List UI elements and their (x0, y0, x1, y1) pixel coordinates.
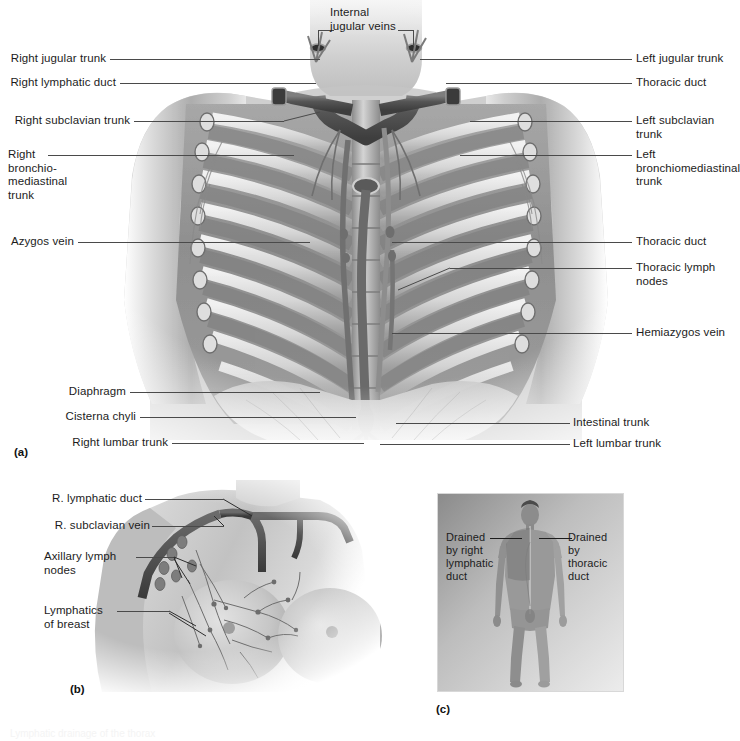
label-left-lumbar-trunk: Left lumbar trunk (573, 437, 693, 451)
label-azygos-vein: Azygos vein (0, 235, 74, 249)
label-hemiazygos-vein: Hemiazygos vein (636, 326, 736, 340)
panel-b-breast-lymphatics: R. lymphatic duct R. subclavian vein Axi… (0, 480, 380, 695)
label-thoracic-duct-lower: Thoracic duct (636, 235, 732, 249)
label-axillary-lymph-nodes: Axillary lymph nodes (44, 550, 142, 577)
label-r-lymphatic-duct: R. lymphatic duct (0, 492, 142, 506)
label-drained-by-right-lymphatic-duct: Drained by right lymphatic duct (446, 531, 496, 583)
panel-letter-a: (a) (14, 446, 28, 458)
label-lymphatics-of-breast: Lymphatics of breast (44, 604, 122, 631)
whole-body-illustration (438, 494, 623, 691)
label-right-subclavian-trunk: Right subclavian trunk (0, 114, 130, 128)
label-thoracic-lymph-nodes: Thoracic lymph nodes (636, 261, 732, 288)
label-right-jugular-trunk: Right jugular trunk (0, 52, 106, 66)
label-internal-jugular-veins: Internal jugular veins (330, 6, 440, 33)
label-thoracic-duct-upper: Thoracic duct (636, 76, 732, 90)
label-left-jugular-trunk: Left jugular trunk (636, 52, 732, 66)
panel-letter-c: (c) (436, 703, 450, 715)
label-diaphragm: Diaphragm (0, 385, 126, 399)
panel-b-diagonal-leaders (0, 480, 380, 695)
panel-letter-b: (b) (70, 683, 85, 695)
figure-caption-footer: Lymphatic drainage of the thorax (10, 728, 155, 739)
label-intestinal-trunk: Intestinal trunk (573, 416, 693, 430)
label-right-bronchiomediastinal-trunk: Right bronchio- mediastinal trunk (8, 148, 118, 202)
label-right-lymphatic-duct: Right lymphatic duct (0, 76, 116, 90)
label-r-subclavian-vein: R. subclavian vein (0, 519, 150, 533)
label-cisterna-chyli: Cisterna chyli (0, 410, 136, 424)
panel-c-body-drainage: Drained by right lymphatic duct Drained … (437, 493, 624, 692)
panel-a-thoracic-lymphatics: Internal jugular veins Right jugular tru… (0, 0, 732, 470)
diagonal-leaders (0, 0, 732, 470)
label-drained-by-thoracic-duct: Drained by thoracic duct (568, 531, 622, 583)
label-left-subclavian-trunk: Left subclavian trunk (636, 114, 732, 141)
label-left-bronchiomediastinal-trunk: Left bronchiomediastinal trunk (636, 148, 734, 189)
